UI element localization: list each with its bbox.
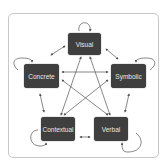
edge-visual-concrete xyxy=(51,46,65,55)
node-verbal: Verbal xyxy=(94,117,128,141)
edge-visual-symbolic xyxy=(106,49,118,59)
node-contextual: Contextual xyxy=(41,117,75,141)
edge-concrete-contextual xyxy=(40,94,44,112)
node-label: Visual xyxy=(76,41,94,48)
node-concrete: Concrete xyxy=(24,64,59,88)
node-visual: Visual xyxy=(68,33,101,55)
edge-symbolic-verbal xyxy=(125,94,129,112)
node-label: Symbolic xyxy=(115,73,141,80)
loop-visual xyxy=(79,23,90,31)
node-label: Concrete xyxy=(28,73,54,80)
node-label: Contextual xyxy=(42,126,73,133)
node-label: Verbal xyxy=(102,126,120,133)
edge-visual-contextual xyxy=(61,57,81,115)
node-symbolic: Symbolic xyxy=(111,64,146,88)
